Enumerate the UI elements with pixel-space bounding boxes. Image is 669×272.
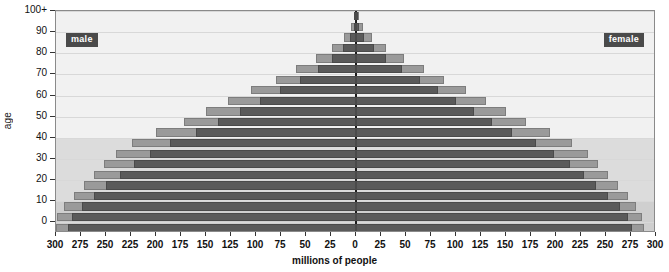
plot-area: male female (55, 10, 655, 232)
bar-male-inner-50 (218, 118, 356, 126)
bar-male-inner-60 (260, 97, 356, 105)
x-tick-mark (255, 232, 256, 236)
bar-female-inner-85 (356, 44, 374, 52)
bar-female-inner-10 (356, 202, 620, 210)
x-tick-mark (480, 232, 481, 236)
x-axis-title: millions of people (0, 255, 669, 266)
y-tick-label: 20 (7, 173, 47, 184)
bar-female-inner-95 (356, 23, 359, 31)
x-tick-mark (355, 232, 356, 236)
bar-female-inner-80 (356, 54, 386, 62)
y-tick-label: 60 (7, 89, 47, 100)
bar-female-inner-35 (356, 150, 554, 158)
x-tick-mark (405, 232, 406, 236)
y-tick-label: 50 (7, 110, 47, 121)
legend-badge-male: male (66, 33, 98, 47)
bar-female-inner-15 (356, 192, 608, 200)
bar-female-inner-45 (356, 128, 512, 136)
x-tick-mark (280, 232, 281, 236)
bar-female-inner-20 (356, 181, 596, 189)
bar-female-inner-60 (356, 97, 456, 105)
bar-female-inner-25 (356, 171, 584, 179)
y-tick-label: 70 (7, 67, 47, 78)
x-tick-mark (180, 232, 181, 236)
population-pyramid-chart: age 0102030405060708090100+ male female … (0, 0, 669, 272)
x-tick-mark (605, 232, 606, 236)
bar-male-inner-15 (94, 192, 356, 200)
y-tick-label: 100+ (7, 4, 47, 15)
bar-male-inner-85 (343, 44, 356, 52)
x-tick-mark (655, 232, 656, 236)
x-tick-mark (380, 232, 381, 236)
x-tick-mark (305, 232, 306, 236)
x-tick-mark (105, 232, 106, 236)
bar-female-inner-55 (356, 107, 474, 115)
x-tick-mark (205, 232, 206, 236)
x-tick-mark (55, 232, 56, 236)
x-tick-mark (530, 232, 531, 236)
y-tick-label: 40 (7, 131, 47, 142)
x-tick-mark (155, 232, 156, 236)
x-tick-mark (130, 232, 131, 236)
bar-male-inner-65 (280, 86, 356, 94)
bar-female-inner-50 (356, 118, 492, 126)
legend-badge-female: female (604, 33, 644, 47)
x-tick-mark (330, 232, 331, 236)
y-tick-label: 90 (7, 25, 47, 36)
bar-male-inner-70 (300, 76, 356, 84)
x-tick-label: 300 (635, 239, 669, 250)
bar-male-inner-25 (120, 171, 356, 179)
x-tick-mark (230, 232, 231, 236)
y-tick-label: 80 (7, 46, 47, 57)
bar-male-inner-0 (68, 224, 356, 232)
bar-female-inner-75 (356, 65, 402, 73)
bar-female-inner-40 (356, 139, 536, 147)
bar-male-inner-45 (196, 128, 356, 136)
x-tick-mark (505, 232, 506, 236)
y-tick-label: 0 (7, 215, 47, 226)
bar-female-inner-5 (356, 213, 628, 221)
bar-male-inner-35 (150, 150, 356, 158)
bar-male-inner-75 (318, 65, 356, 73)
x-tick-mark (455, 232, 456, 236)
bar-male-inner-55 (240, 107, 356, 115)
bar-male-inner-5 (72, 213, 356, 221)
bar-male-inner-80 (332, 54, 356, 62)
x-tick-mark (80, 232, 81, 236)
bar-male-inner-30 (134, 160, 356, 168)
bar-female-inner-0 (356, 224, 632, 232)
bar-female-inner-70 (356, 76, 420, 84)
bar-female-inner-100+ (356, 12, 358, 20)
bar-male-inner-10 (82, 202, 356, 210)
bar-male-inner-40 (170, 139, 356, 147)
bar-male-inner-20 (106, 181, 356, 189)
bar-female-inner-65 (356, 86, 438, 94)
x-tick-mark (630, 232, 631, 236)
bar-female-inner-90 (356, 33, 364, 41)
y-tick-label: 10 (7, 194, 47, 205)
x-tick-mark (430, 232, 431, 236)
y-tick-label: 30 (7, 152, 47, 163)
x-tick-mark (580, 232, 581, 236)
x-tick-mark (555, 232, 556, 236)
bar-female-inner-30 (356, 160, 570, 168)
